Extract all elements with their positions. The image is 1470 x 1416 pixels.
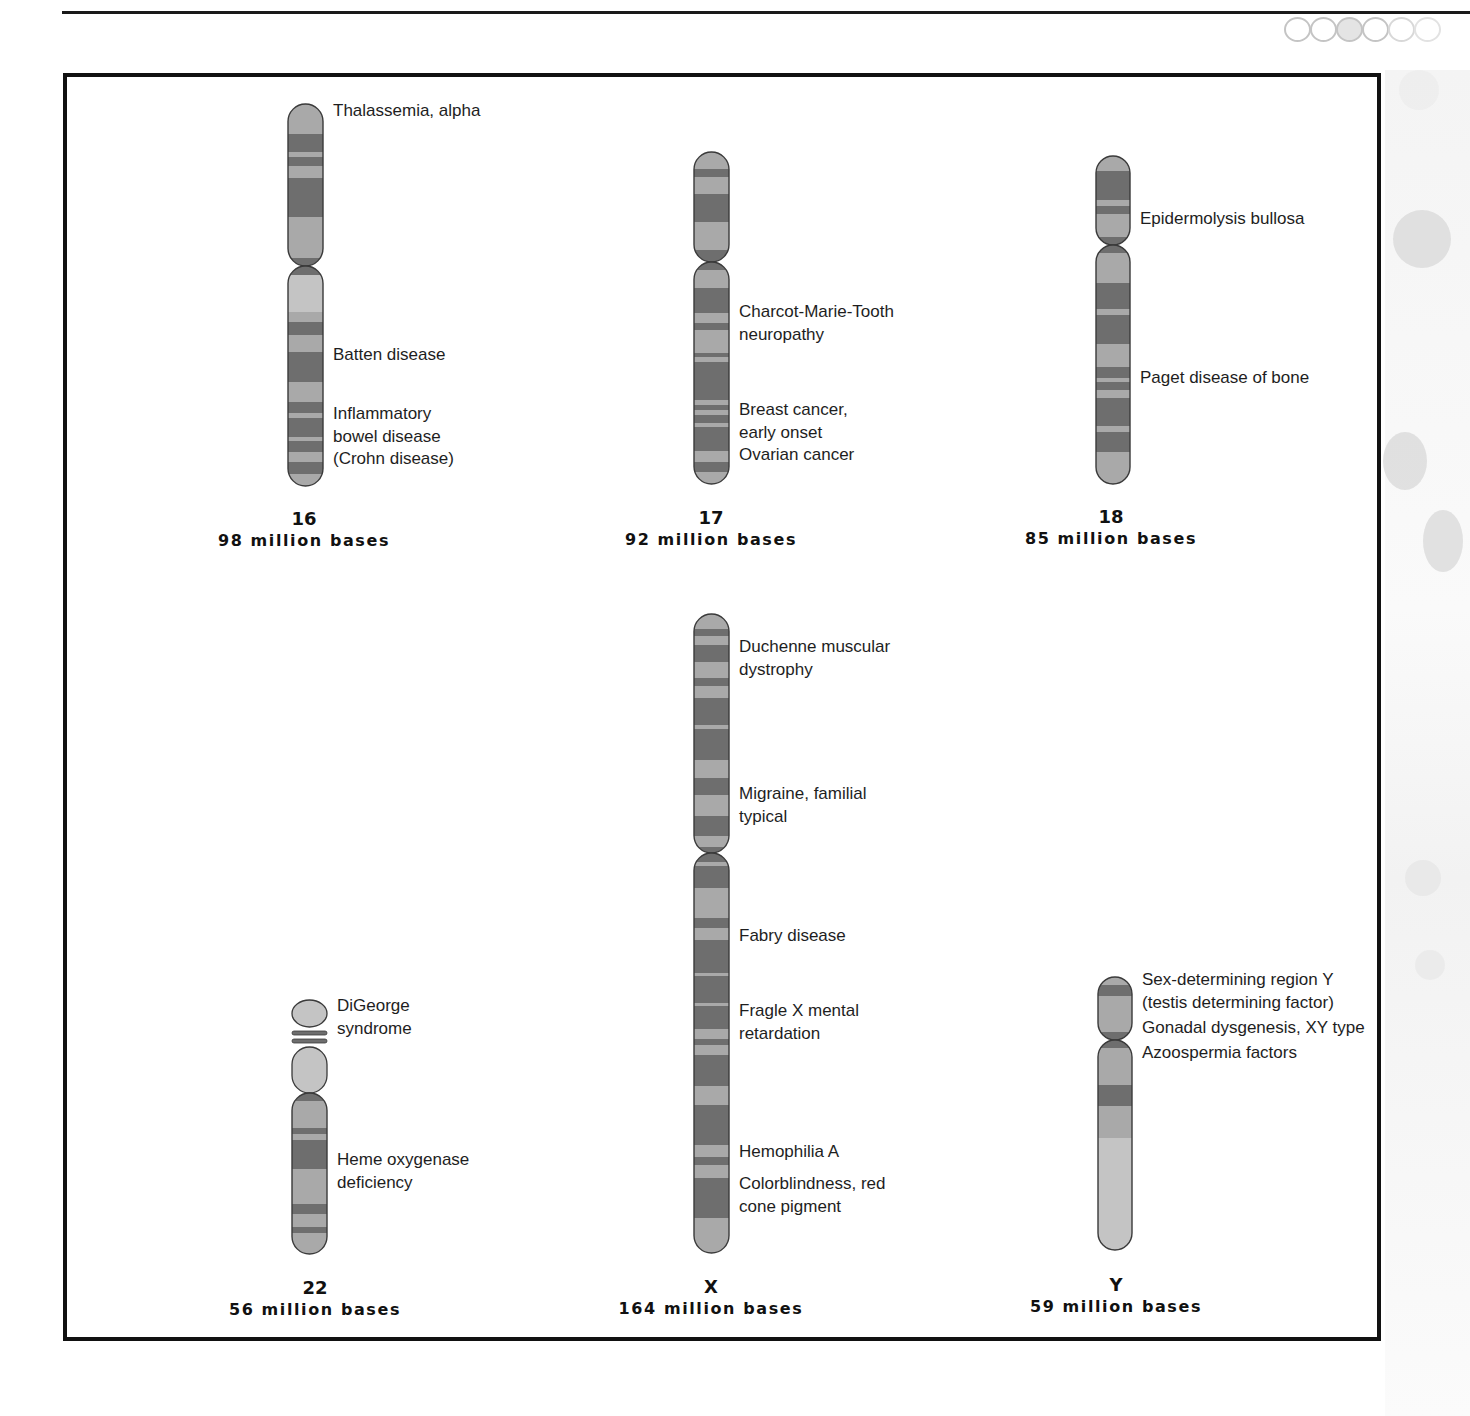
- circle-icon: [1336, 17, 1363, 42]
- molecule-atom-icon: [1415, 950, 1445, 980]
- circle-icon: [1362, 17, 1389, 42]
- chromosome-caption: 22 56 million bases: [229, 1277, 401, 1321]
- circle-icon: [1414, 17, 1441, 42]
- disease-label-right: Migraine, familial typical: [739, 783, 867, 828]
- disease-label-right: Charcot-Marie-Toothneuropathy: [739, 301, 894, 346]
- chromosome-number: 17: [625, 507, 797, 529]
- disease-label-right: Inflammatorybowel disease(Crohn disease): [333, 403, 454, 471]
- chromosome-size: 85 million bases: [1025, 528, 1197, 550]
- disease-label-right: Breast cancer,early onsetOvarian cancer: [739, 399, 854, 467]
- chromosome-size: 59 million bases: [1030, 1296, 1202, 1318]
- chromosome-number: Y: [1030, 1274, 1202, 1296]
- chromosome-number: X: [619, 1276, 804, 1298]
- disease-label-right: Fragle X mentalretardation: [739, 1000, 859, 1045]
- disease-label-right: Gonadal dysgenesis, XY type: [1142, 1017, 1365, 1040]
- chromosome-caption: 17 92 million bases: [625, 507, 797, 551]
- molecule-atom-icon: [1423, 510, 1463, 572]
- disease-label-right: DiGeorgesyndrome: [337, 995, 412, 1040]
- disease-label-right: Duchenne musculardystrophy: [739, 636, 890, 681]
- molecule-atom-icon: [1399, 70, 1439, 110]
- disease-label-right: Colorblindness, redcone pigment: [739, 1173, 885, 1218]
- chromosome-ideogram-icon: [692, 612, 731, 1255]
- chromosome-ideogram-icon: [286, 102, 325, 488]
- chromosome-caption: X 164 million bases: [619, 1276, 804, 1320]
- disease-label-right: Epidermolysis bullosa: [1140, 208, 1304, 231]
- chromosome-number: 16: [218, 508, 390, 530]
- chromosome-ideogram-icon: [1096, 975, 1134, 1252]
- chromosome-number: 18: [1025, 506, 1197, 528]
- chromosome-size: 92 million bases: [625, 529, 797, 551]
- disease-label-right: Heme oxygenasedeficiency: [337, 1149, 469, 1194]
- chromosome-size: 98 million bases: [218, 530, 390, 552]
- chromosome-number: 22: [229, 1277, 401, 1299]
- chromosome-size: 164 million bases: [619, 1298, 804, 1320]
- circle-icon: [1284, 17, 1311, 42]
- page-top-rule: [62, 11, 1470, 14]
- molecule-atom-icon: [1393, 210, 1451, 268]
- chromosome-ideogram-icon: [290, 998, 329, 1256]
- molecule-atom-icon: [1405, 860, 1441, 896]
- chromosome-size: 56 million bases: [229, 1299, 401, 1321]
- decorative-circles: [1284, 17, 1440, 42]
- disease-label-right: Thalassemia, alpha: [333, 100, 480, 123]
- disease-label-right: Batten disease: [333, 344, 445, 367]
- molecule-atom-icon: [1383, 432, 1427, 490]
- chromosome-caption: 16 98 million bases: [218, 508, 390, 552]
- circle-icon: [1310, 17, 1337, 42]
- disease-label-right: Azoospermia factors: [1142, 1042, 1297, 1065]
- disease-label-right: Paget disease of bone: [1140, 367, 1309, 390]
- disease-label-right: Hemophilia A: [739, 1141, 839, 1164]
- chromosome-caption: Y 59 million bases: [1030, 1274, 1202, 1318]
- chromosome-ideogram-icon: [1094, 154, 1132, 486]
- chromosome-caption: 18 85 million bases: [1025, 506, 1197, 550]
- circle-icon: [1388, 17, 1415, 42]
- decorative-molecule-background: [1385, 70, 1470, 1416]
- disease-label-right: Fabry disease: [739, 925, 846, 948]
- disease-label-right: Sex-determining region Y(testis determin…: [1142, 969, 1334, 1014]
- chromosome-ideogram-icon: [692, 150, 731, 486]
